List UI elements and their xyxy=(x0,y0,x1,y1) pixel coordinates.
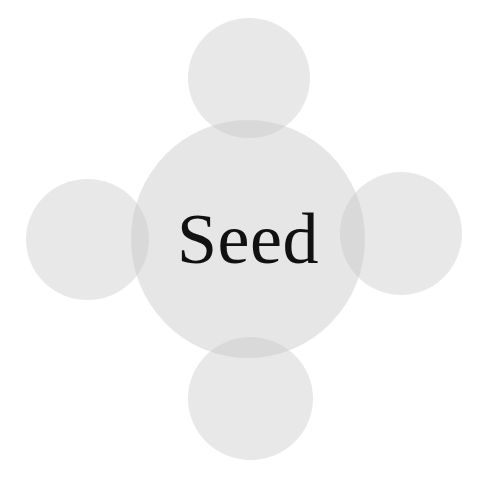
center-label: Seed xyxy=(131,120,365,358)
seed-cluster-diagram: Seed xyxy=(0,0,485,488)
